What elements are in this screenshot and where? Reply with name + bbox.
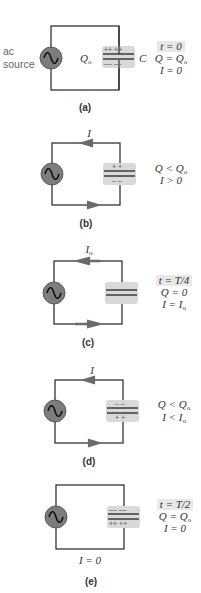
bottom-plate-charge: + + xyxy=(115,414,125,421)
panel-a: ac source Qo ++ ++ –– –– C t = 0 Q = Qo … xyxy=(3,26,188,113)
state-time: t = T/4 xyxy=(159,274,190,286)
panel-caption: (c) xyxy=(82,337,94,348)
panel-caption: (e) xyxy=(85,576,97,587)
source-label-ac: ac xyxy=(3,45,14,57)
state-charge: Q < Qo xyxy=(158,398,191,412)
state-current: I = Io xyxy=(161,298,186,312)
capacitor-icon: –– –– ++ ++ xyxy=(107,506,140,528)
top-plate-charge: –– –– xyxy=(109,506,127,513)
bottom-plate-charge: – – xyxy=(112,177,122,184)
bottom-current-label: I = 0 xyxy=(78,554,102,566)
state-current: I = 0 xyxy=(163,522,187,534)
current-label: I xyxy=(86,127,92,139)
state-current: I = 0 xyxy=(159,64,183,76)
state-current: I < Io xyxy=(161,411,186,425)
panel-d: I – – + + Q < Qo I < Io (d) xyxy=(44,364,191,467)
current-arrow-right-icon xyxy=(89,440,99,446)
capacitor-icon: – – + + xyxy=(106,400,139,422)
bottom-plate-charge: ++ ++ xyxy=(109,520,127,527)
top-plate-charge: + + xyxy=(112,163,122,170)
current-label: I xyxy=(89,364,95,376)
top-plate-charge: ++ ++ xyxy=(104,46,122,53)
panel-b: I + + – – Q < Qo I > 0 (b) xyxy=(41,127,188,229)
capacitor-label: C xyxy=(139,52,147,64)
state-time: t = 0 xyxy=(160,40,182,52)
ac-source-icon xyxy=(41,163,63,185)
current-arrow-left-icon xyxy=(84,377,94,383)
source-label-source: source xyxy=(3,58,35,70)
capacitor-icon xyxy=(105,282,138,304)
current-arrow-right-icon xyxy=(88,202,98,208)
ac-capacitor-circuit-figure: ac source Qo ++ ++ –– –– C t = 0 Q = Qo … xyxy=(0,0,201,593)
panel-caption: (d) xyxy=(83,456,96,467)
capacitor-icon: ++ ++ –– –– xyxy=(102,26,135,90)
state-charge: Q = 0 xyxy=(161,286,188,298)
panel-e: –– –– ++ ++ t = T/2 Q = Qo I = 0 I = 0 (… xyxy=(45,485,193,587)
current-label: Io xyxy=(84,243,93,257)
ac-source-icon xyxy=(40,47,62,69)
ac-source-icon xyxy=(45,506,67,528)
state-time: t = T/2 xyxy=(160,498,191,510)
top-plate-charge: – – xyxy=(115,400,125,407)
panel-c: Io t = T/4 Q = 0 I = Io (c) xyxy=(43,243,192,348)
state-current: I > 0 xyxy=(159,174,183,186)
panel-caption: (a) xyxy=(79,102,91,113)
ac-source-icon xyxy=(44,400,66,422)
bottom-plate-charge: –– –– xyxy=(104,60,122,67)
charge-label: Qo xyxy=(80,52,92,66)
capacitor-icon: + + – – xyxy=(103,163,136,185)
ac-source-icon xyxy=(43,282,65,304)
panel-caption: (b) xyxy=(80,218,93,229)
current-arrow-left-icon xyxy=(82,140,92,146)
